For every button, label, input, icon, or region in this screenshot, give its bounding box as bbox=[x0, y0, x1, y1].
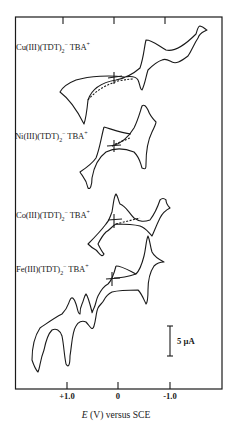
top-ticks bbox=[63, 17, 165, 24]
trace-cu bbox=[60, 26, 207, 124]
scale-bar bbox=[167, 326, 173, 356]
scale-bar-label: 5 µA bbox=[177, 336, 195, 346]
x-axis-title: E (V) versus SCE bbox=[0, 409, 232, 420]
label-fe: Fe(III)(TDT)2− TBA+ bbox=[16, 264, 88, 274]
trace-fe bbox=[32, 236, 164, 372]
label-co: Co(III)(TDT)2− TBA+ bbox=[16, 210, 90, 220]
x-tick-label-zero: 0 bbox=[116, 391, 120, 401]
label-cu: Cu(III)(TDT)2− TBA+ bbox=[16, 42, 90, 52]
x-tick-label-minus1: -1.0 bbox=[163, 391, 177, 401]
plot-frame bbox=[16, 17, 223, 389]
trace-ni bbox=[80, 105, 156, 188]
bottom-ticks bbox=[67, 382, 170, 389]
x-tick-label-plus1: +1.0 bbox=[59, 391, 75, 401]
label-ni: Ni(III)(TDT)2− TBA+ bbox=[15, 131, 87, 141]
trace-co bbox=[88, 194, 170, 256]
